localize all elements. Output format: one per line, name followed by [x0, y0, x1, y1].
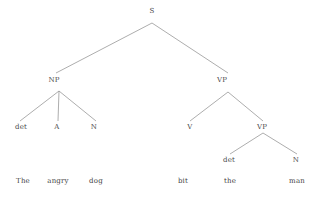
tree-terminal-w-bit: bit [178, 178, 188, 185]
tree-edge-np-to-a1 [58, 91, 59, 121]
edges-group [20, 23, 297, 154]
tree-node-n2: N [293, 157, 299, 164]
tree-node-v1: V [187, 124, 192, 131]
tree-edge-vp2-to-n2 [263, 133, 297, 154]
tree-terminal-w-man: man [289, 178, 305, 185]
tree-terminal-w-dog: dog [89, 178, 103, 185]
tree-edge-s-to-np [56, 23, 152, 73]
tree-edge-vp2-to-det2 [230, 133, 263, 154]
tree-node-vp2: VP [257, 124, 267, 131]
syntax-tree-diagram: SNPVPdetANVVPdetN Theangrydogbittheman [0, 0, 316, 197]
tree-node-vp: VP [217, 77, 227, 84]
tree-node-det2: det [223, 157, 235, 164]
tree-edge-vp-to-vp2 [228, 92, 263, 121]
tree-edges-layer [0, 0, 316, 197]
tree-edge-np-to-det1 [20, 91, 59, 121]
tree-edge-s-to-vp [152, 23, 228, 73]
tree-edge-np-to-n1 [59, 91, 96, 121]
tree-edge-vp-to-v1 [190, 92, 228, 121]
tree-node-s: S [150, 8, 155, 15]
tree-terminal-w-the1: The [16, 178, 30, 185]
tree-terminal-w-angry: angry [47, 178, 68, 185]
tree-terminal-w-the2: the [224, 178, 236, 185]
tree-node-n1: N [91, 124, 97, 131]
tree-node-det1: det [15, 124, 27, 131]
tree-node-a1: A [54, 124, 59, 131]
tree-node-np: NP [48, 77, 59, 84]
